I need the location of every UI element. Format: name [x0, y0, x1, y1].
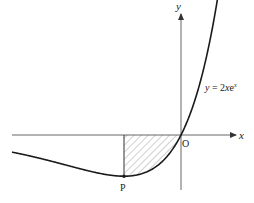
diagram-canvas: y x O P y = 2xex [0, 0, 254, 203]
point-P [122, 174, 126, 178]
curve-y-2xex [12, 0, 223, 176]
point-P-label: P [120, 182, 126, 193]
y-axis-label: y [175, 0, 181, 12]
curve-equation-label: y = 2xex [204, 82, 237, 93]
shaded-region [124, 135, 181, 176]
x-axis-label: x [238, 129, 244, 141]
eq-prefix: = 2 [209, 82, 225, 93]
origin-label: O [182, 138, 189, 149]
eq-exp: x [233, 82, 237, 88]
